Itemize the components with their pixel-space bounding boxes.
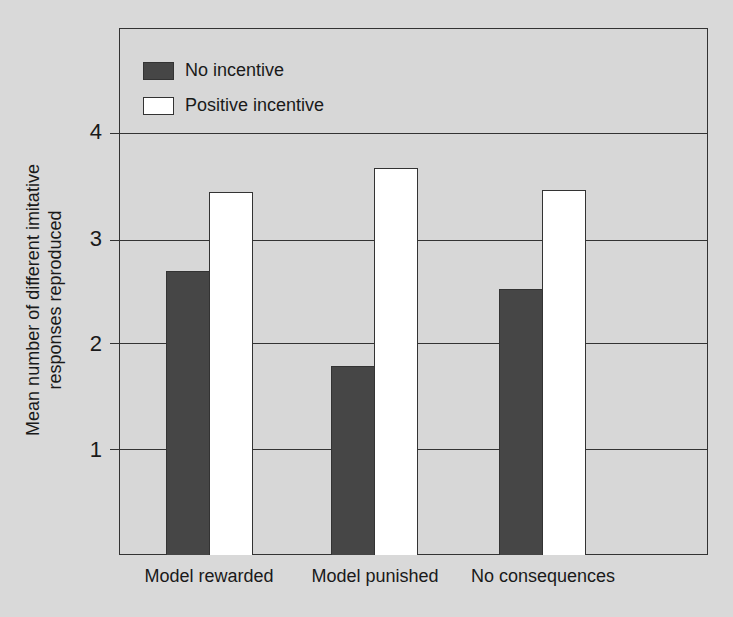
y-tick-3: 3 [72, 226, 102, 252]
gridline-4 [120, 133, 707, 134]
y-tick-1: 1 [72, 437, 102, 463]
x-category-model-rewarded: Model rewarded [119, 566, 299, 587]
bar-model-punished-no-incentive [331, 366, 375, 555]
y-axis-label-line-1: Mean number of different imitative [22, 80, 44, 520]
bar-model-rewarded-no-incentive [166, 271, 210, 555]
y-tick-2: 2 [72, 331, 102, 357]
legend-label: Positive incentive [185, 95, 324, 116]
x-category-no-consequences: No consequences [453, 566, 633, 587]
legend-item-no-incentive: No incentive [143, 53, 324, 88]
bar-model-rewarded-positive-incentive [209, 192, 253, 555]
legend-item-positive-incentive: Positive incentive [143, 88, 324, 123]
legend: No incentive Positive incentive [143, 53, 324, 123]
legend-label: No incentive [185, 60, 284, 81]
y-axis-label-line-2: responses reproduced [44, 80, 66, 520]
bar-no-consequences-positive-incentive [542, 190, 586, 555]
legend-swatch-white [143, 97, 174, 115]
bar-no-consequences-no-incentive [499, 289, 543, 555]
legend-swatch-dark [143, 62, 174, 80]
y-tick-4: 4 [72, 119, 102, 145]
y-axis-label: Mean number of different imitative respo… [22, 80, 66, 520]
x-category-model-punished: Model punished [285, 566, 465, 587]
bar-model-punished-positive-incentive [374, 168, 418, 555]
